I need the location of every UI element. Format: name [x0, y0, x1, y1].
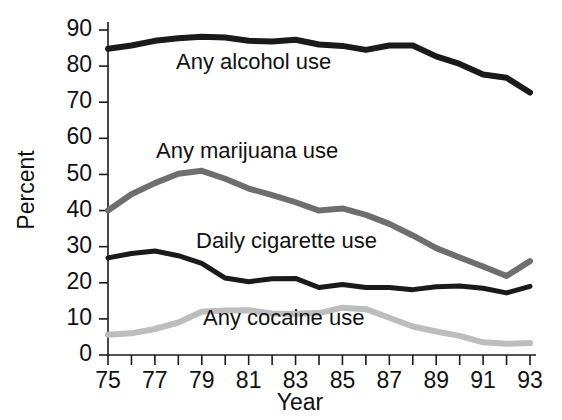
- y-axis-title: Percent: [13, 150, 39, 230]
- x-axis-ticks: 75777981838587899193: [95, 355, 543, 393]
- x-tick-label: 81: [236, 367, 262, 393]
- y-tick-label: 70: [66, 87, 92, 113]
- line-chart: 0102030405060708090 75777981838587899193…: [0, 0, 562, 420]
- x-tick-label: 93: [517, 367, 543, 393]
- y-tick-label: 30: [66, 232, 92, 258]
- y-tick-label: 80: [66, 51, 92, 77]
- series-label-2: Daily cigarette use: [196, 228, 377, 253]
- y-tick-label: 50: [66, 160, 92, 186]
- series-label-3: Any cocaine use: [203, 305, 364, 330]
- x-tick-label: 89: [423, 367, 449, 393]
- y-tick-label: 20: [66, 268, 92, 294]
- y-tick-label: 90: [66, 15, 92, 41]
- x-tick-label: 77: [142, 367, 168, 393]
- y-tick-label: 40: [66, 196, 92, 222]
- x-tick-label: 91: [470, 367, 496, 393]
- series-label-0: Any alcohol use: [176, 49, 331, 74]
- x-tick-label: 79: [189, 367, 215, 393]
- series-lines: [108, 37, 530, 344]
- x-tick-label: 75: [95, 367, 121, 393]
- y-axis-ticks: 0102030405060708090: [66, 15, 108, 366]
- x-axis-title: Year: [277, 389, 324, 415]
- y-tick-label: 10: [66, 304, 92, 330]
- series-line-1: [108, 171, 530, 276]
- x-tick-label: 85: [330, 367, 356, 393]
- series-label-1: Any marijuana use: [156, 138, 338, 163]
- chart-container: 0102030405060708090 75777981838587899193…: [0, 0, 562, 420]
- y-tick-label: 60: [66, 123, 92, 149]
- y-tick-label: 0: [79, 340, 92, 366]
- x-tick-label: 87: [377, 367, 403, 393]
- series-labels: Any alcohol useAny marijuana useDaily ci…: [156, 49, 377, 330]
